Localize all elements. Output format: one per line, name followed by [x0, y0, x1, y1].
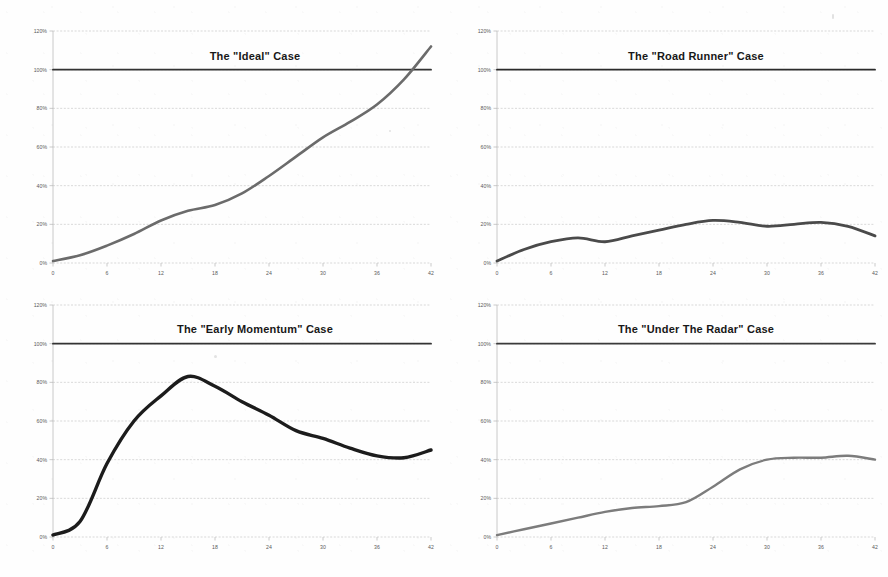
y-axis-tick-label: 80%: [37, 105, 48, 111]
chart-svg-ideal: 0%20%40%60%80%100%120%06121824303642 The…: [0, 0, 444, 288]
x-axis-tick-label: 6: [106, 544, 109, 550]
y-axis-tick-label: 0%: [40, 534, 48, 540]
x-axis-tick-label: 18: [656, 544, 662, 550]
series-group: [497, 70, 875, 261]
axis-group: [494, 31, 876, 267]
chart-panel-early-momentum: 0%20%40%60%80%100%120%06121824303642 The…: [0, 289, 444, 577]
data-series-line: [497, 220, 875, 261]
series-group: [53, 46, 431, 261]
y-axis-tick-label: 120%: [478, 302, 492, 308]
chart-title: The "Under The Radar" Case: [618, 323, 774, 335]
y-axis-tick-label: 40%: [37, 183, 48, 189]
scan-speck: [832, 14, 834, 19]
y-axis-tick-label: 60%: [481, 418, 492, 424]
tick-labels-group: 0%20%40%60%80%100%120%06121824303642: [34, 28, 434, 276]
x-axis-tick-label: 24: [266, 544, 272, 550]
y-axis-tick-label: 60%: [37, 418, 48, 424]
chart-svg-early-momentum: 0%20%40%60%80%100%120%06121824303642 The…: [0, 289, 444, 577]
x-axis-tick-label: 42: [428, 270, 434, 276]
y-axis-tick-label: 40%: [37, 457, 48, 463]
chart-sheet: 0%20%40%60%80%100%120%06121824303642 The…: [0, 0, 888, 577]
x-axis-tick-label: 24: [266, 270, 272, 276]
tick-labels-group: 0%20%40%60%80%100%120%06121824303642: [34, 302, 434, 550]
x-axis-tick-label: 6: [550, 270, 553, 276]
y-axis-tick-label: 60%: [37, 144, 48, 150]
chart-title: The "Ideal" Case: [210, 50, 301, 62]
x-axis-tick-label: 30: [320, 270, 326, 276]
y-axis-tick-label: 20%: [481, 495, 492, 501]
x-axis-tick-label: 18: [212, 270, 218, 276]
grid-group: [53, 305, 431, 537]
x-axis-tick-label: 36: [818, 544, 824, 550]
x-axis-tick-label: 12: [158, 270, 164, 276]
data-series-line: [53, 376, 431, 535]
tick-labels-group: 0%20%40%60%80%100%120%06121824303642: [478, 28, 878, 276]
y-axis-tick-label: 0%: [484, 534, 492, 540]
data-series-line: [497, 456, 875, 535]
y-axis-tick-label: 100%: [34, 67, 48, 73]
series-group: [497, 344, 875, 535]
y-axis-tick-label: 0%: [484, 260, 492, 266]
chart-panel-road-runner: 0%20%40%60%80%100%120%06121824303642 The…: [444, 0, 888, 288]
x-axis-tick-label: 30: [764, 270, 770, 276]
x-axis-tick-label: 6: [550, 544, 553, 550]
x-axis-tick-label: 24: [710, 544, 716, 550]
grid-group: [53, 31, 431, 263]
x-axis-tick-label: 12: [602, 544, 608, 550]
y-axis-tick-label: 60%: [481, 144, 492, 150]
scan-speck: [389, 130, 391, 132]
y-axis-tick-label: 80%: [481, 379, 492, 385]
x-axis-tick-label: 36: [818, 270, 824, 276]
y-axis-tick-label: 40%: [481, 457, 492, 463]
y-axis-tick-label: 40%: [481, 183, 492, 189]
x-axis-tick-label: 42: [428, 544, 434, 550]
x-axis-tick-label: 18: [656, 270, 662, 276]
y-axis-tick-label: 20%: [37, 221, 48, 227]
chart-svg-road-runner: 0%20%40%60%80%100%120%06121824303642 The…: [444, 0, 888, 288]
y-axis-tick-label: 120%: [34, 302, 48, 308]
x-axis-tick-label: 36: [374, 270, 380, 276]
x-axis-tick-label: 30: [320, 544, 326, 550]
axis-group: [50, 31, 432, 267]
y-axis-tick-label: 100%: [478, 67, 492, 73]
y-axis-tick-label: 120%: [34, 28, 48, 34]
x-axis-tick-label: 0: [52, 544, 55, 550]
tick-labels-group: 0%20%40%60%80%100%120%06121824303642: [478, 302, 878, 550]
chart-panel-ideal: 0%20%40%60%80%100%120%06121824303642 The…: [0, 0, 444, 288]
x-axis-tick-label: 30: [764, 544, 770, 550]
data-series-line: [53, 46, 431, 261]
scan-speck: [214, 355, 217, 358]
x-axis-tick-label: 0: [496, 270, 499, 276]
x-axis-tick-label: 6: [106, 270, 109, 276]
chart-title: The "Road Runner" Case: [628, 50, 764, 62]
y-axis-tick-label: 20%: [37, 495, 48, 501]
x-axis-tick-label: 18: [212, 544, 218, 550]
x-axis-tick-label: 12: [602, 270, 608, 276]
chart-svg-under-the-radar: 0%20%40%60%80%100%120%06121824303642 The…: [444, 289, 888, 577]
x-axis-tick-label: 12: [158, 544, 164, 550]
y-axis-tick-label: 20%: [481, 221, 492, 227]
x-axis-tick-label: 0: [496, 544, 499, 550]
y-axis-tick-label: 100%: [34, 341, 48, 347]
y-axis-tick-label: 120%: [478, 28, 492, 34]
x-axis-tick-label: 42: [872, 544, 878, 550]
y-axis-tick-label: 80%: [37, 379, 48, 385]
x-axis-tick-label: 0: [52, 270, 55, 276]
y-axis-tick-label: 80%: [481, 105, 492, 111]
y-axis-tick-label: 0%: [40, 260, 48, 266]
axis-group: [494, 305, 876, 541]
chart-title: The "Early Momentum" Case: [177, 323, 333, 335]
x-axis-tick-label: 24: [710, 270, 716, 276]
x-axis-tick-label: 36: [374, 544, 380, 550]
axis-group: [50, 305, 432, 541]
grid-group: [497, 31, 875, 263]
x-axis-tick-label: 42: [872, 270, 878, 276]
y-axis-tick-label: 100%: [478, 341, 492, 347]
chart-panel-under-the-radar: 0%20%40%60%80%100%120%06121824303642 The…: [444, 289, 888, 577]
series-group: [53, 344, 431, 535]
